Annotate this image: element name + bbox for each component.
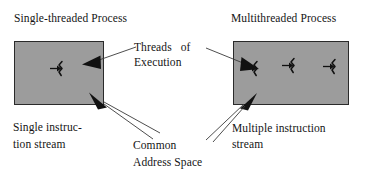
multiple-instruction-stream-callout-line1: Multiple instruction <box>232 121 326 136</box>
multiple-instruction-stream-callout-line2: stream <box>232 137 263 152</box>
threads-of-execution-callout-line1: Threads of <box>134 40 190 55</box>
common-address-space-callout-line2: Address Space <box>133 155 202 170</box>
leader-single-instruction-stream <box>104 104 153 139</box>
single-threaded-process-heading: Single-threaded Process <box>14 11 127 26</box>
multithreaded-process-heading: Multithreaded Process <box>231 11 336 26</box>
single-instruction-stream-callout-line1: Single instruc- <box>13 120 82 135</box>
threads-of-execution-callout-line2: Execution <box>134 55 182 70</box>
common-address-space-callout-line1: Common <box>133 138 176 153</box>
thread-squiggle-icon <box>322 56 344 78</box>
thread-squiggle-icon <box>244 58 266 80</box>
thread-squiggle-icon <box>49 58 71 80</box>
single-instruction-stream-callout-line2: tion stream <box>13 137 66 152</box>
thread-squiggle-icon <box>281 55 303 77</box>
figure-canvas: Single-threaded Process Multithreaded Pr… <box>0 0 368 182</box>
